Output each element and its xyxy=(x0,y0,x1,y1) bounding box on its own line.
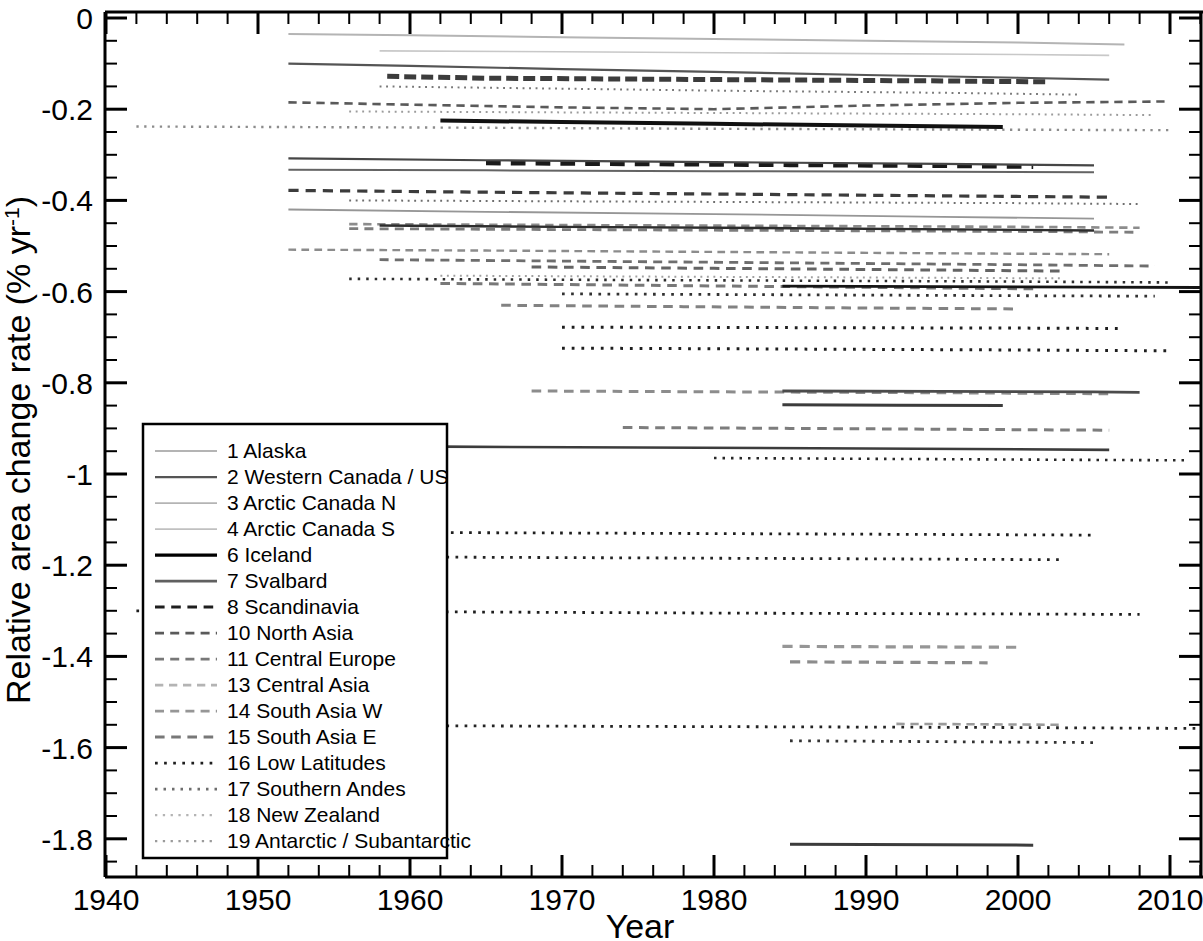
y-tick-label: -1.6 xyxy=(41,732,93,765)
legend-label: 13 Central Asia xyxy=(227,673,370,696)
legend-label: 15 South Asia E xyxy=(227,725,376,748)
chart-legend[interactable]: 1 Alaska2 Western Canada / US3 Arctic Ca… xyxy=(143,424,471,858)
series-line xyxy=(782,391,1139,392)
legend-label: 19 Antarctic / Subantarctic xyxy=(227,829,471,852)
legend-label: 3 Arctic Canada N xyxy=(227,491,396,514)
legend-label: 6 Iceland xyxy=(227,543,312,566)
x-tick-label: 1960 xyxy=(377,883,444,916)
y-tick-label: -0.2 xyxy=(41,93,93,126)
x-tick-label: 1940 xyxy=(73,883,140,916)
chart-svg: 19401950196019701980199020002010 0-0.2-0… xyxy=(0,0,1203,941)
y-tick-label: 0 xyxy=(76,2,93,35)
legend-label: 4 Arctic Canada S xyxy=(227,517,395,540)
x-tick-label: 1990 xyxy=(833,883,900,916)
legend-label: 10 North Asia xyxy=(227,621,353,644)
legend-label: 16 Low Latitudes xyxy=(227,751,386,774)
x-tick-label: 2000 xyxy=(985,883,1052,916)
y-tick-label: -1 xyxy=(66,458,93,491)
legend-label: 17 Southern Andes xyxy=(227,777,406,800)
x-axis-title: Year xyxy=(606,907,675,941)
legend-label: 8 Scandinavia xyxy=(227,595,359,618)
y-axis-title-exponent: -1 xyxy=(0,207,23,226)
y-tick-label: -1.8 xyxy=(41,823,93,856)
chart-figure: 19401950196019701980199020002010 0-0.2-0… xyxy=(0,0,1203,941)
series-line xyxy=(790,844,1033,845)
x-tick-label: 1950 xyxy=(225,883,292,916)
y-tick-label: -0.4 xyxy=(41,184,93,217)
x-tick-label: 2010 xyxy=(1137,883,1203,916)
legend-label: 14 South Asia W xyxy=(227,699,382,722)
series-line xyxy=(782,405,1002,406)
legend-label: 11 Central Europe xyxy=(227,647,396,670)
legend-label: 2 Western Canada / US xyxy=(227,465,448,488)
legend-label: 18 New Zealand xyxy=(227,803,380,826)
y-tick-label: -1.2 xyxy=(41,549,93,582)
x-tick-label: 1980 xyxy=(681,883,748,916)
y-tick-label: -1.4 xyxy=(41,640,93,673)
y-tick-label: -0.8 xyxy=(41,367,93,400)
y-axis-title: Relative area change rate (% yr-1) xyxy=(0,196,37,704)
series-line xyxy=(782,286,1200,287)
x-tick-label: 1970 xyxy=(529,883,596,916)
y-tick-label: -0.6 xyxy=(41,276,93,309)
legend-label: 7 Svalbard xyxy=(227,569,327,592)
legend-label: 1 Alaska xyxy=(227,439,307,462)
